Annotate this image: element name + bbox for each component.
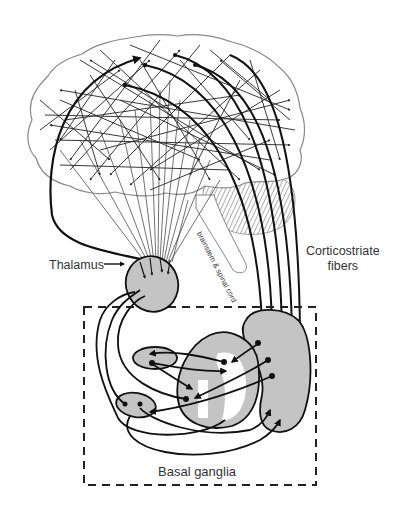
basal-ganglia-label: Basal ganglia	[158, 464, 236, 479]
thalamus	[118, 249, 186, 319]
corticostriate-label-line2: fibers	[306, 259, 380, 274]
corticostriate-label: Corticostriate fibers	[306, 244, 380, 274]
corticostriate-label-line1: Corticostriate	[306, 244, 380, 259]
thalamus-label: Thalamus	[49, 258, 104, 273]
globus-pallidus	[177, 332, 259, 428]
